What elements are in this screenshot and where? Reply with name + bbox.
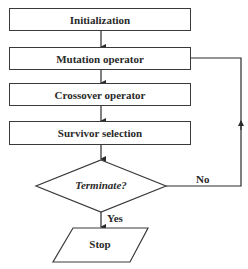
no-edge-label: No xyxy=(196,173,209,185)
init-label: Initialization xyxy=(70,14,131,26)
survivor-box: Survivor selection xyxy=(9,121,191,145)
terminate-label: Terminate? xyxy=(68,179,134,191)
mutation-label: Mutation operator xyxy=(56,53,144,65)
survivor-label: Survivor selection xyxy=(58,127,142,139)
crossover-box: Crossover operator xyxy=(9,83,191,106)
crossover-label: Crossover operator xyxy=(55,89,146,101)
yes-edge-label: Yes xyxy=(107,212,123,224)
init-box: Initialization xyxy=(9,8,191,31)
stop-label: Stop xyxy=(80,238,120,250)
mutation-box: Mutation operator xyxy=(9,47,191,70)
